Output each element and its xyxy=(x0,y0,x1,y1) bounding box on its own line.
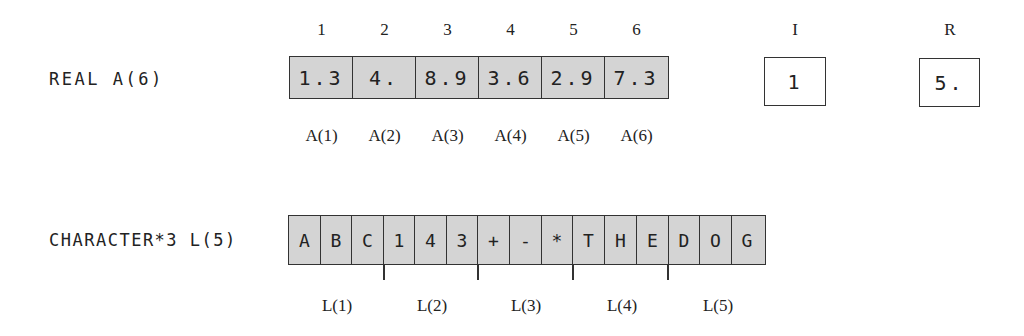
char-cell: T xyxy=(573,216,605,264)
char-cell: + xyxy=(478,216,510,264)
char-cell: H xyxy=(605,216,637,264)
group-divider xyxy=(477,264,479,280)
real-array-declaration: REAL A(6) xyxy=(49,69,164,89)
real-array-cells: 1.3 4. 8.9 3.6 2.9 7.3 xyxy=(289,56,669,99)
array-cell: 1.3 xyxy=(290,57,353,98)
element-label: L(4) xyxy=(577,296,667,316)
scalar-r-box: 5. xyxy=(919,58,980,107)
scalar-i-name: I xyxy=(764,20,826,40)
char-array-cells: A B C 1 4 3 + - * T H E D O G xyxy=(288,215,766,265)
array-cell: 2.9 xyxy=(542,57,605,98)
char-cell: O xyxy=(700,216,732,264)
char-cell: * xyxy=(542,216,573,264)
char-cell: 1 xyxy=(384,216,415,264)
element-label: L(2) xyxy=(387,296,477,316)
index-label: 4 xyxy=(479,20,542,40)
scalar-i-box: 1 xyxy=(764,57,826,106)
char-cell: D xyxy=(669,216,700,264)
char-cell: G xyxy=(732,216,762,264)
index-label: 6 xyxy=(605,20,668,40)
index-label: 2 xyxy=(353,20,416,40)
char-cell: E xyxy=(637,216,669,264)
element-label: L(5) xyxy=(673,296,763,316)
char-cell: 3 xyxy=(447,216,478,264)
char-cell: B xyxy=(321,216,352,264)
char-cell: 4 xyxy=(415,216,447,264)
index-label: 5 xyxy=(542,20,605,40)
index-label: 1 xyxy=(290,20,353,40)
group-divider xyxy=(383,264,385,280)
char-array-declaration: CHARACTER*3 L(5) xyxy=(49,230,237,250)
char-cell: A xyxy=(289,216,321,264)
element-label: L(1) xyxy=(292,296,382,316)
char-cell: - xyxy=(510,216,542,264)
group-divider xyxy=(572,264,574,280)
element-label: A(2) xyxy=(353,126,416,146)
element-label: A(5) xyxy=(542,126,605,146)
element-label: L(3) xyxy=(481,296,571,316)
array-cell: 7.3 xyxy=(605,57,667,98)
element-label: A(6) xyxy=(605,126,668,146)
char-cell: C xyxy=(352,216,384,264)
array-cell: 3.6 xyxy=(479,57,542,98)
index-label: 3 xyxy=(416,20,479,40)
array-cell: 4. xyxy=(353,57,416,98)
element-label: A(3) xyxy=(416,126,479,146)
element-label: A(4) xyxy=(479,126,542,146)
group-divider xyxy=(667,264,669,280)
scalar-r-name: R xyxy=(919,20,981,40)
element-label: A(1) xyxy=(290,126,353,146)
array-cell: 8.9 xyxy=(416,57,479,98)
